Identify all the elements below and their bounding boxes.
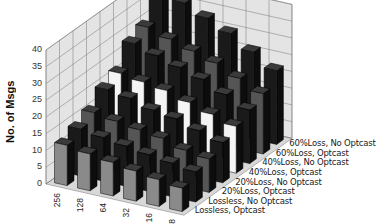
x-tick: 64 bbox=[98, 203, 108, 212]
x-tick: 256 bbox=[52, 193, 62, 207]
y-tick: 15 bbox=[26, 128, 42, 138]
y-tick: 25 bbox=[26, 94, 42, 104]
bar-front bbox=[170, 185, 183, 211]
series-label: 20%Loss, No Optcast bbox=[235, 177, 321, 187]
bar-front bbox=[147, 177, 160, 207]
series-label: 60%Loss, No Optcast bbox=[289, 138, 375, 148]
series-label: 60%Loss, Optcast bbox=[276, 148, 349, 158]
bar-side bbox=[263, 89, 270, 154]
bar-side bbox=[196, 167, 203, 202]
bar-side bbox=[250, 105, 257, 163]
y-tick: 10 bbox=[26, 145, 42, 155]
x-tick: 16 bbox=[144, 213, 154, 222]
bar-front bbox=[124, 168, 137, 201]
x-tick: 8 bbox=[167, 219, 177, 224]
y-tick: 0 bbox=[26, 178, 42, 188]
bar-front bbox=[55, 143, 68, 186]
x-tick: 32 bbox=[121, 208, 131, 217]
bar-side bbox=[113, 158, 120, 196]
x-tick: 128 bbox=[75, 198, 85, 212]
bar-side bbox=[159, 175, 166, 207]
bar-side bbox=[209, 154, 216, 192]
bar-side bbox=[223, 138, 230, 183]
series-label: Lossless, Optcast bbox=[195, 205, 265, 215]
y-axis-label: No. of Msgs bbox=[4, 72, 20, 152]
series-label: Lossless, No Optcast bbox=[208, 196, 292, 206]
bar-side bbox=[67, 141, 74, 186]
bar-side bbox=[136, 166, 143, 201]
y-tick: 5 bbox=[26, 161, 42, 171]
y-tick: 20 bbox=[26, 111, 42, 121]
bar-side bbox=[277, 66, 284, 144]
bar-front bbox=[78, 151, 91, 191]
y-tick: 40 bbox=[26, 44, 42, 54]
bar-front bbox=[101, 160, 114, 196]
series-label: 40%Loss, No Optcast bbox=[262, 157, 348, 167]
bar-side bbox=[90, 149, 97, 191]
y-tick: 30 bbox=[26, 78, 42, 88]
series-label: 20%Loss, Optcast bbox=[222, 186, 295, 196]
series-label: 40%Loss, Optcast bbox=[249, 167, 322, 177]
bar-side bbox=[236, 122, 243, 174]
y-tick: 35 bbox=[26, 61, 42, 71]
